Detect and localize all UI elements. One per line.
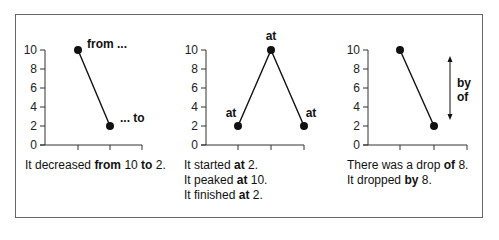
y-tick-label: 4 <box>191 100 198 114</box>
caption-line: There was a drop of 8. <box>347 158 468 173</box>
data-point <box>396 46 404 54</box>
caption-line: It decreased from 10 to 2. <box>25 158 166 173</box>
data-point <box>430 122 438 130</box>
caption-chart-3: There was a drop of 8.It dropped by 8. <box>347 158 468 188</box>
data-point <box>234 122 242 130</box>
annotation-from: from ... <box>87 37 127 51</box>
data-point <box>267 46 275 54</box>
caption-line: It peaked at 10. <box>184 173 267 188</box>
data-point <box>300 122 308 130</box>
caption-chart-1: It decreased from 10 to 2. <box>25 158 166 173</box>
caption-line: It finished at 2. <box>184 188 267 203</box>
y-tick-label: 10 <box>185 43 199 57</box>
y-tick-label: 4 <box>353 100 360 114</box>
y-tick-label: 2 <box>353 119 360 133</box>
y-tick-label: 2 <box>30 119 37 133</box>
data-line <box>238 50 304 126</box>
y-tick-label: 0 <box>191 138 198 152</box>
y-tick-label: 8 <box>353 62 360 76</box>
caption-line: It dropped by 8. <box>347 173 468 188</box>
chart-2: 0246810atatat <box>185 29 317 152</box>
chart-1: 0246810from ...... to <box>24 37 145 152</box>
y-tick-label: 4 <box>30 100 37 114</box>
arrow-down-icon <box>448 114 453 120</box>
y-tick-label: 10 <box>347 43 361 57</box>
caption-chart-2: It started at 2.It peaked at 10.It finis… <box>184 158 267 203</box>
annotation-by: by <box>457 76 471 90</box>
arrow-up-icon <box>448 56 453 62</box>
caption-line: It started at 2. <box>184 158 267 173</box>
y-tick-label: 6 <box>30 81 37 95</box>
y-tick-label: 8 <box>30 62 37 76</box>
data-point <box>74 46 82 54</box>
y-tick-label: 0 <box>353 138 360 152</box>
chart-3: 0246810byof <box>347 43 472 152</box>
y-tick-label: 6 <box>353 81 360 95</box>
data-point <box>106 122 114 130</box>
y-tick-label: 0 <box>30 138 37 152</box>
data-line <box>400 50 434 126</box>
annotation-to: ... to <box>120 111 145 125</box>
y-tick-label: 6 <box>191 81 198 95</box>
data-line <box>78 50 110 126</box>
y-tick-label: 2 <box>191 119 198 133</box>
y-tick-label: 8 <box>191 62 198 76</box>
annotation-at: at <box>226 106 237 120</box>
annotation-at: at <box>266 29 277 43</box>
annotation-of: of <box>457 90 469 104</box>
annotation-at: at <box>306 106 317 120</box>
y-tick-label: 10 <box>24 43 38 57</box>
